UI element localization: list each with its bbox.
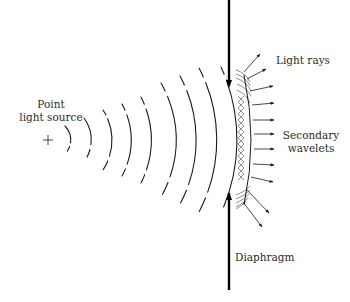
point-source-label-line1: Point: [18, 98, 84, 111]
light-rays-label: Light rays: [276, 54, 330, 67]
point-source-label-line2: light source: [18, 111, 84, 124]
aperture-edge-arrows: [226, 80, 232, 200]
point-source-marker: [43, 135, 53, 145]
secondary-wavelets: [236, 70, 251, 209]
huygens-diagram: Point light source Light rays Secondary …: [0, 0, 350, 302]
wavefronts: [65, 67, 237, 213]
light-rays: [243, 54, 274, 227]
secondary-wavelets-label: Secondary wavelets: [280, 129, 342, 155]
diaphragm-label: Diaphragm: [235, 251, 294, 264]
point-source-label: Point light source: [18, 98, 84, 124]
secondary-wavelets-label-line2: wavelets: [280, 142, 342, 155]
secondary-wavelets-label-line1: Secondary: [280, 129, 342, 142]
